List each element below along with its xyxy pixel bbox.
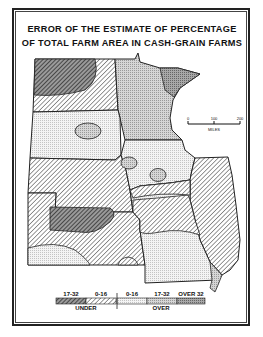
legend: 17-32 0-16 0-16 17-32 OVER 32 UNDER OVER bbox=[56, 291, 205, 311]
legend-label-under-0-16: 0-16 bbox=[95, 291, 108, 297]
legend-swatch-over-0-16 bbox=[117, 298, 147, 304]
scale-tick-200: 200 bbox=[237, 116, 244, 121]
legend-label-over-32: OVER 32 bbox=[178, 291, 204, 297]
legend-label-over-0-16: 0-16 bbox=[126, 291, 139, 297]
legend-swatch-under-17-32 bbox=[56, 298, 86, 304]
region-oklahoma bbox=[28, 265, 145, 283]
legend-label-under-17-32: 17-32 bbox=[63, 291, 79, 297]
scale-tick-100: 100 bbox=[211, 116, 218, 121]
legend-label-over-17-32: 17-32 bbox=[154, 291, 170, 297]
legend-group-under: UNDER bbox=[75, 305, 97, 311]
legend-swatch-over-17-32 bbox=[147, 298, 177, 304]
region-south-dakota bbox=[30, 110, 121, 160]
region-minnesota bbox=[115, 53, 200, 140]
region-north-dakota bbox=[33, 59, 118, 112]
cash-grain-error-map: 0 100 200 MILES 17-32 0-16 0-16 17-32 OV… bbox=[0, 0, 263, 337]
scale-tick-0: 0 bbox=[187, 116, 190, 121]
legend-swatch-under-0-16 bbox=[86, 298, 116, 304]
scale-bar: 0 100 200 MILES bbox=[187, 116, 244, 132]
scale-unit: MILES bbox=[208, 127, 220, 132]
legend-swatch-over-32 bbox=[177, 298, 205, 304]
legend-group-over: OVER bbox=[152, 305, 170, 311]
